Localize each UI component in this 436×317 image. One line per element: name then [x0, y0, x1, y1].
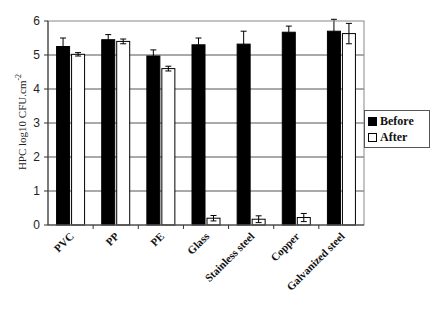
bar-before — [282, 32, 295, 225]
y-tick-label: 3 — [33, 116, 40, 130]
bar-after — [117, 41, 130, 225]
x-category-labels: PVCPPPEGlassStainless steelCopperGalvani… — [52, 229, 347, 292]
bar-before — [147, 56, 160, 225]
y-axis-label: HPC log10 CFU.cm-2 — [14, 74, 28, 170]
x-category-label: Copper — [268, 230, 302, 264]
bar-before — [237, 44, 250, 225]
bar-after — [342, 34, 355, 225]
legend-item-before: Before — [368, 113, 426, 129]
legend-item-after: After — [368, 129, 426, 145]
bar-after — [72, 54, 85, 225]
y-tick-labels: 0123456 — [33, 14, 40, 232]
bar-after — [162, 69, 175, 225]
y-tick-label: 5 — [33, 48, 40, 62]
legend: Before After — [364, 110, 430, 148]
y-tick-label: 1 — [33, 184, 40, 198]
y-tick-label: 4 — [33, 82, 40, 96]
before-swatch-icon — [368, 117, 377, 126]
bar-before — [327, 31, 340, 225]
x-category-label: PP — [103, 230, 121, 248]
after-swatch-icon — [368, 133, 377, 142]
legend-label-after: After — [380, 130, 407, 145]
bars — [57, 19, 356, 225]
y-tick-label: 2 — [33, 150, 40, 164]
legend-label-before: Before — [380, 114, 414, 129]
y-tick-label: 6 — [33, 14, 40, 28]
x-category-label: Glass — [185, 229, 212, 256]
bar-before — [102, 40, 115, 225]
gridlines — [48, 55, 364, 191]
y-tick-label: 0 — [33, 218, 40, 232]
x-category-label: PE — [148, 230, 166, 248]
bar-before — [192, 45, 205, 225]
x-category-label: PVC — [52, 230, 77, 255]
bar-before — [57, 47, 70, 226]
bar-chart: 0123456 PVCPPPEGlassStainless steelCoppe… — [0, 0, 436, 317]
